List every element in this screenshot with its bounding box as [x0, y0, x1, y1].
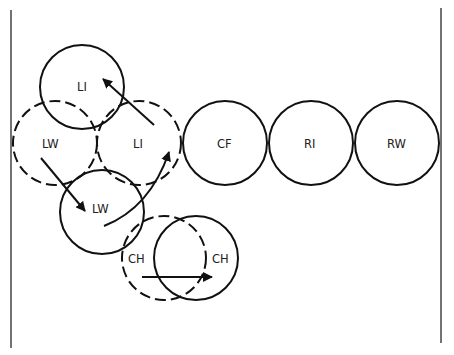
position-label: RW [387, 137, 406, 151]
position-label: LI [133, 137, 143, 151]
position-label: CH [128, 252, 145, 266]
position-label: CH [212, 252, 229, 266]
formation-diagram: LILWLICFRIRWLWCHCH [0, 0, 454, 355]
position-label: RI [304, 137, 315, 151]
position-label: LW [92, 202, 109, 216]
position-label: LI [77, 80, 87, 94]
position-labels: LILWLICFRIRWLWCHCH [42, 80, 406, 266]
position-label: CF [217, 137, 232, 151]
position-label: LW [42, 137, 59, 151]
